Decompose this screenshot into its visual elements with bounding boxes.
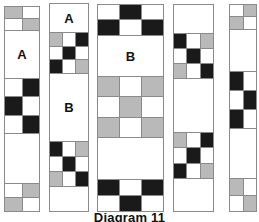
cell-white[interactable] [22, 7, 40, 18]
cell-black[interactable] [5, 97, 22, 114]
column-4-plain-block-bottom[interactable] [174, 178, 213, 211]
cell-white[interactable] [75, 47, 88, 59]
cell-black[interactable] [243, 91, 257, 109]
cell-black[interactable] [186, 49, 199, 63]
column-3-plain-block[interactable] [98, 137, 163, 180]
column-4-plain-block-middle[interactable] [174, 78, 213, 132]
cell-gray[interactable] [50, 172, 62, 186]
cell-white[interactable] [98, 196, 119, 211]
column-5-checker-2x2-bottom[interactable] [230, 178, 256, 211]
column-4-checker-3x3-bottom[interactable] [174, 132, 213, 178]
cell-white[interactable] [22, 97, 40, 114]
cell-white[interactable] [62, 172, 75, 186]
cell-white[interactable] [141, 97, 163, 116]
cell-black[interactable] [174, 164, 186, 178]
cell-black[interactable] [50, 142, 62, 156]
column-1-checker-2x3[interactable] [5, 78, 39, 133]
cell-gray[interactable] [22, 19, 40, 30]
cell-gray[interactable] [230, 17, 243, 28]
column-1-checker-2x2-top[interactable] [5, 7, 39, 30]
cell-white[interactable] [75, 157, 88, 171]
cell-black[interactable] [174, 34, 186, 48]
cell-black[interactable] [119, 5, 141, 19]
column-3-checker-3x3-gray[interactable] [98, 76, 163, 136]
cell-black[interactable] [75, 172, 88, 186]
cell-white[interactable] [62, 142, 75, 156]
column-3-plain-block-b[interactable]: B [98, 35, 163, 77]
column-3-checker-3x2-top[interactable] [98, 5, 163, 35]
cell-gray[interactable] [141, 77, 163, 96]
column-2-checker-3x3-top[interactable] [50, 32, 88, 72]
column-5-plain-block-lower[interactable] [230, 128, 256, 179]
cell-black[interactable] [200, 133, 213, 147]
cell-black[interactable] [186, 148, 199, 162]
cell-white[interactable] [98, 97, 119, 116]
cell-white[interactable] [119, 20, 141, 34]
cell-white[interactable] [141, 196, 163, 211]
cell-gray[interactable] [141, 118, 163, 137]
cell-black[interactable] [50, 60, 62, 72]
cell-white[interactable] [50, 47, 62, 59]
column-5-checker-2x2-top[interactable] [230, 5, 256, 29]
cell-gray[interactable] [98, 118, 119, 137]
cell-white[interactable] [62, 33, 75, 45]
cell-white[interactable] [230, 196, 243, 211]
cell-white[interactable] [200, 148, 213, 162]
cell-gray[interactable] [75, 142, 88, 156]
cell-white[interactable] [62, 60, 75, 72]
cell-white[interactable] [200, 49, 213, 63]
cell-black[interactable] [230, 110, 243, 128]
cell-white[interactable] [230, 5, 243, 16]
cell-white[interactable] [243, 72, 257, 90]
column-5-plain-block[interactable] [230, 29, 256, 72]
cell-white[interactable] [174, 49, 186, 63]
cell-gray[interactable] [75, 60, 88, 72]
cell-white[interactable] [119, 118, 141, 137]
cell-white[interactable] [186, 164, 199, 178]
cell-white[interactable] [5, 184, 22, 197]
cell-white[interactable] [119, 77, 141, 96]
cell-white[interactable] [50, 157, 62, 171]
cell-gray[interactable] [5, 7, 22, 18]
column-1-checker-2x2-bottom[interactable] [5, 183, 39, 211]
cell-white[interactable] [243, 179, 257, 194]
cell-white[interactable] [186, 133, 199, 147]
cell-gray[interactable] [98, 77, 119, 96]
cell-black[interactable] [200, 64, 213, 78]
column-3-checker-3x2-bottom[interactable] [98, 179, 163, 211]
cell-black[interactable] [22, 116, 40, 133]
cell-white[interactable] [119, 180, 141, 195]
column-2-checker-3x3-bottom[interactable] [50, 141, 88, 185]
cell-white[interactable] [243, 110, 257, 128]
cell-gray[interactable] [50, 33, 62, 45]
column-4-checker-3x3-top[interactable] [174, 33, 213, 78]
cell-white[interactable] [186, 64, 199, 78]
cell-gray[interactable] [200, 34, 213, 48]
cell-black[interactable] [62, 157, 75, 171]
cell-white[interactable] [243, 17, 257, 28]
cell-black[interactable] [98, 20, 119, 34]
column-5-checker-2x3[interactable] [230, 71, 256, 127]
column-2-plain-block-b[interactable]: B [50, 73, 88, 142]
cell-black[interactable] [22, 79, 40, 96]
cell-white[interactable] [141, 5, 163, 19]
column-4-plain-block-top[interactable] [174, 5, 213, 33]
column-4[interactable] [173, 4, 214, 212]
cell-gray[interactable] [200, 164, 213, 178]
cell-black[interactable] [141, 20, 163, 34]
cell-white[interactable] [230, 91, 243, 109]
cell-black[interactable] [141, 180, 163, 195]
cell-white[interactable] [5, 116, 22, 133]
cell-white[interactable] [98, 5, 119, 19]
cell-white[interactable] [186, 34, 199, 48]
cell-black[interactable] [75, 33, 88, 45]
column-2-plain-block-a[interactable]: A [50, 4, 88, 32]
cell-gray[interactable] [230, 179, 243, 194]
cell-black[interactable] [230, 72, 243, 90]
column-1-plain-block[interactable] [5, 133, 39, 183]
column-1-plain-block-a[interactable]: A [5, 30, 39, 78]
cell-gray[interactable] [174, 64, 186, 78]
cell-white[interactable] [5, 19, 22, 30]
column-2[interactable]: AB [49, 3, 89, 212]
cell-black[interactable] [98, 180, 119, 195]
